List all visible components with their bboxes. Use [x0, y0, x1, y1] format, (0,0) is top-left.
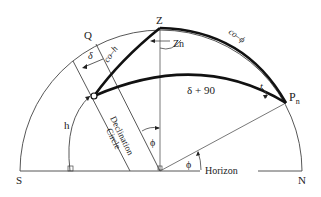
- phi-vertical-arrow-icon: [155, 126, 160, 130]
- label-h: h: [64, 119, 70, 131]
- label-p: Pn: [289, 90, 300, 106]
- label-zn: Zn: [173, 38, 184, 49]
- star-position-icon: [91, 93, 97, 99]
- celestial-triangle-diagram: Z Q S N Pn co–h co–ϕ Zn δ + 90 t δ h ϕ ϕ…: [0, 0, 321, 197]
- label-t: t: [260, 81, 263, 92]
- t-arrow-icon: [263, 95, 268, 99]
- label-horizon: Horizon: [205, 165, 238, 176]
- co-h-arc: [94, 28, 160, 96]
- celestial-sphere-arc: [20, 30, 302, 171]
- declination-circle-line: [73, 61, 130, 171]
- label-delta-plus-90: δ + 90: [187, 84, 215, 96]
- label-q: Q: [84, 29, 92, 41]
- altitude-arc: [69, 96, 90, 171]
- pole-axis-line: [160, 104, 284, 171]
- label-co-phi: co–ϕ: [227, 26, 247, 45]
- label-z: Z: [156, 14, 163, 26]
- label-co-h: co–h: [101, 44, 120, 64]
- label-s: S: [16, 174, 22, 186]
- right-angle-marker-h: [68, 166, 73, 171]
- zn-arrow-icon: [150, 39, 155, 43]
- label-phi-horizon: ϕ: [186, 159, 191, 170]
- delta-arrow-icon: [82, 64, 87, 69]
- label-delta: δ: [88, 50, 93, 61]
- label-phi-vertical: ϕ: [150, 137, 155, 148]
- label-n: N: [298, 174, 306, 186]
